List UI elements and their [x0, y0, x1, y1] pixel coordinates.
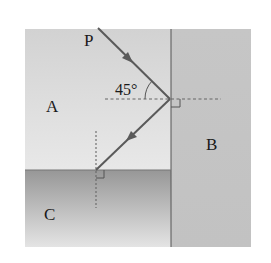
angle-label: 45° — [115, 81, 137, 98]
region-b-label: B — [206, 135, 217, 154]
region-a-label: A — [46, 97, 59, 116]
reflection-diagram: P 45° A B C — [0, 0, 271, 263]
ray-start-label: P — [84, 31, 93, 50]
region-c-label: C — [44, 205, 55, 224]
